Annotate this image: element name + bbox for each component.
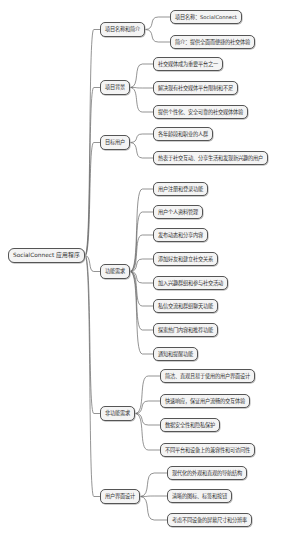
leaf-node[interactable]: 加入兴趣群组和参与社交活动 [153, 276, 228, 290]
leaf-node[interactable]: 提供个性化、安全可靠的社交媒体体验 [153, 105, 248, 119]
leaf-label: 探索热门内容和推荐功能 [158, 327, 213, 333]
leaf-label: 快速响应，保证用户流畅的交互体验 [165, 398, 245, 404]
leaf-node[interactable]: 发布动态和分享内容 [153, 228, 208, 242]
leaf-node[interactable]: 不同平台和设备上的兼容性和可访问性 [160, 443, 255, 457]
leaf-node[interactable]: 添加好友和建立社交关系 [153, 252, 218, 266]
leaf-node[interactable]: 用户个人资料管理 [153, 205, 203, 219]
leaf-label: 现代化的外观和直观的导航结构 [172, 470, 242, 476]
branch-node-background[interactable]: 项目背景 [100, 80, 130, 95]
leaf-label: 私信交流和群组聊天功能 [158, 303, 213, 309]
leaf-node[interactable]: 热衷于社交互动、分享生活和发现新兴趣的用户 [153, 151, 268, 165]
leaf-node[interactable]: 项目名称：SocialConnect [170, 10, 242, 24]
leaf-label: 用户注册和登录功能 [158, 186, 203, 192]
branch-node-functional-req[interactable]: 功能需求 [100, 264, 130, 279]
connector-lines [0, 0, 290, 547]
leaf-label: 用户个人资料管理 [158, 209, 198, 215]
branch-node-ui-design[interactable]: 用户界面设计 [100, 489, 140, 504]
leaf-label: 不同平台和设备上的兼容性和可访问性 [165, 447, 250, 453]
leaf-label: 数据安全性和隐私保护 [165, 422, 215, 428]
leaf-node[interactable]: 简洁、直观且易于使用的用户界面设计 [160, 369, 255, 383]
branch-node-target-users[interactable]: 目标用户 [100, 135, 130, 150]
leaf-node[interactable]: 数据安全性和隐私保护 [160, 418, 220, 432]
leaf-node[interactable]: 简介：提供全面而便捷的社交体验 [170, 35, 255, 49]
leaf-label: 热衷于社交互动、分享生活和发现新兴趣的用户 [158, 155, 263, 161]
leaf-label: 加入兴趣群组和参与社交活动 [158, 280, 223, 286]
leaf-node[interactable]: 探索热门内容和推荐功能 [153, 323, 218, 337]
leaf-node[interactable]: 通知和提醒功能 [153, 347, 198, 361]
root-label: SocialConnect 应用程序 [13, 252, 80, 258]
leaf-label: 提供个性化、安全可靠的社交媒体体验 [158, 109, 243, 115]
leaf-label: 添加好友和建立社交关系 [158, 256, 213, 262]
leaf-node[interactable]: 社交媒体成为重要平台之一 [153, 57, 223, 71]
leaf-node[interactable]: 考虑不同设备的屏幕尺寸和分辨率 [167, 513, 252, 527]
leaf-label: 各年龄段和职业的人群 [158, 131, 208, 137]
branch-node-project-intro[interactable]: 项目名称和简介 [100, 22, 145, 37]
leaf-node[interactable]: 清晰的图标、标签和按钮 [167, 489, 232, 503]
root-node[interactable]: SocialConnect 应用程序 [8, 248, 85, 263]
leaf-label: 社交媒体成为重要平台之一 [158, 61, 218, 67]
leaf-node[interactable]: 现代化的外观和直观的导航结构 [167, 466, 247, 480]
branch-label: 项目名称和简介 [105, 26, 140, 32]
branch-label: 目标用户 [105, 139, 125, 145]
leaf-label: 项目名称：SocialConnect [175, 14, 237, 20]
leaf-label: 通知和提醒功能 [158, 351, 193, 357]
branch-node-nonfunctional-req[interactable]: 非功能需求 [100, 406, 135, 421]
leaf-node[interactable]: 快速响应，保证用户流畅的交互体验 [160, 394, 250, 408]
branch-label: 功能需求 [105, 268, 125, 274]
leaf-label: 考虑不同设备的屏幕尺寸和分辨率 [172, 517, 247, 523]
branch-label: 非功能需求 [105, 410, 130, 416]
leaf-label: 清晰的图标、标签和按钮 [172, 493, 227, 499]
branch-label: 项目背景 [105, 84, 125, 90]
leaf-label: 简洁、直观且易于使用的用户界面设计 [165, 373, 250, 379]
leaf-node[interactable]: 解决现有社交媒体平台限制和不足 [153, 81, 238, 95]
leaf-label: 发布动态和分享内容 [158, 232, 203, 238]
leaf-node[interactable]: 各年龄段和职业的人群 [153, 127, 213, 141]
branch-label: 用户界面设计 [105, 493, 135, 499]
leaf-node[interactable]: 用户注册和登录功能 [153, 182, 208, 196]
leaf-label: 解决现有社交媒体平台限制和不足 [158, 85, 233, 91]
mindmap-canvas: SocialConnect 应用程序 项目名称和简介 项目背景 目标用户 功能需… [0, 0, 290, 547]
leaf-node[interactable]: 私信交流和群组聊天功能 [153, 299, 218, 313]
leaf-label: 简介：提供全面而便捷的社交体验 [175, 39, 250, 45]
